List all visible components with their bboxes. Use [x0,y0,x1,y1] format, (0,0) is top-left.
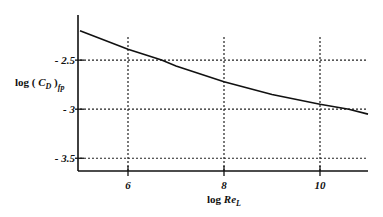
y-tick-label: - 3 [63,103,75,115]
x-axis-label: log ReL [207,193,241,208]
y-tick-label: - 2.5 [55,54,76,66]
x-tick-label: 8 [221,179,227,191]
y-axis-label: log ( CD )fp [15,76,64,92]
chart: 6810- 2.5- 3- 3.5 log ReL log ( CD )fp [0,0,383,217]
x-tick-label: 6 [125,179,131,191]
grid-lines [80,37,366,171]
axes [78,15,368,171]
x-tick-label: 10 [315,179,327,191]
y-tick-label: - 3.5 [55,152,76,164]
